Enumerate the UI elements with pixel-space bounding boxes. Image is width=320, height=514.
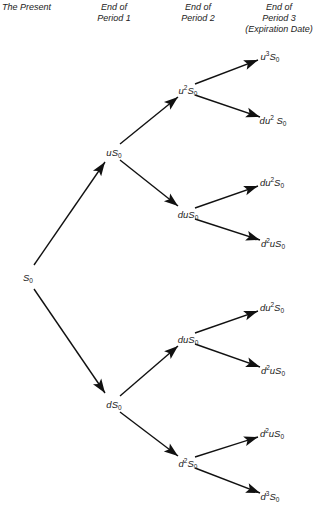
tree-node-n1d: dS0: [106, 398, 121, 411]
tree-node-n2d: d2S0: [179, 457, 198, 470]
tree-node-n3h: d3S0: [261, 490, 280, 503]
tree-node-n2a: u2S0: [179, 84, 198, 97]
arrow-edge: [120, 97, 178, 144]
tree-node-n3g: d2uS0: [260, 427, 284, 440]
arrowhead-icon: [164, 193, 178, 206]
tree-node-n3b: du2 S0: [260, 114, 287, 127]
tree-node-n0: S0: [23, 271, 33, 284]
tree-node-n3f: d2uS0: [261, 364, 285, 377]
tree-node-n2b: duS0: [178, 208, 199, 221]
arrowhead-icon: [164, 444, 178, 456]
tree-node-n1u: uS0: [106, 146, 121, 159]
tree-node-n2c: duS0: [178, 333, 199, 346]
tree-node-n3c: du2S0: [260, 176, 284, 189]
arrow-edge: [120, 346, 178, 396]
tree-node-n3a: u3S0: [261, 50, 280, 63]
arrowhead-icon: [93, 379, 105, 393]
arrow-edge: [120, 160, 178, 206]
tree-node-n3d: d2uS0: [261, 237, 285, 250]
arrowhead-icon: [164, 97, 178, 110]
arrowhead-icon: [93, 162, 105, 176]
arrow-edge: [34, 289, 105, 393]
tree-node-n3e: du2S0: [260, 301, 284, 314]
arrow-edge: [34, 162, 105, 265]
